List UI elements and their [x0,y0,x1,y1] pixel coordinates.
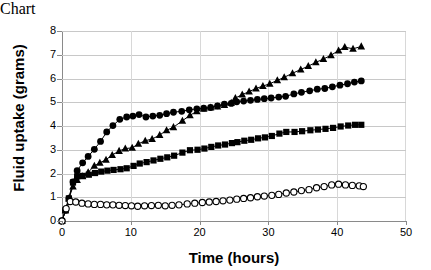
y-tick-label-1: 1 [36,191,56,202]
gridline-x-10 [131,31,132,221]
y-tick-label-5: 5 [36,96,56,107]
gridline-y-0 [62,221,406,222]
x-tick-label-0: 0 [47,226,77,238]
gridline-x-30 [268,31,269,221]
y-tick-label-3: 3 [36,144,56,155]
x-tickmark-0 [62,221,63,225]
y-tickmark-4 [57,126,62,127]
y-tick-label-2: 2 [36,168,56,179]
y-tick-label-8: 8 [36,25,56,36]
y-tickmark-8 [57,31,62,32]
x-tickmark-10 [131,221,132,225]
y-tick-label-7: 7 [36,49,56,60]
y-tickmark-5 [57,102,62,103]
x-tickmark-50 [406,221,407,225]
y-tickmark-1 [57,197,62,198]
x-tick-label-20: 20 [185,226,215,238]
y-axis-title: Fluid uptake (grams) [6,18,32,223]
gridline-y-4 [62,126,406,127]
x-tick-label-30: 30 [253,226,283,238]
x-tick-label-40: 40 [322,226,352,238]
gridline-y-3 [62,150,406,151]
x-tickmark-40 [337,221,338,225]
gridline-y-7 [62,55,406,56]
x-tick-label-50: 50 [391,226,421,238]
x-tickmark-30 [268,221,269,225]
plot-area [62,31,406,221]
gridline-x-20 [200,31,201,221]
y-tick-label-0: 0 [36,215,56,226]
x-axis-title: Time (hours) [62,249,406,266]
gridline-y-6 [62,79,406,80]
x-tickmark-20 [200,221,201,225]
y-tick-label-6: 6 [36,73,56,84]
gridline-y-8 [62,31,406,32]
y-tickmark-6 [57,79,62,80]
y-tickmark-2 [57,174,62,175]
gridline-y-2 [62,174,406,175]
y-tickmark-3 [57,150,62,151]
gridline-y-5 [62,102,406,103]
y-tick-label-4: 4 [36,120,56,131]
chart-figure: Fluid uptake (grams) 012345678 010203040… [0,18,431,270]
y-tickmark-7 [57,55,62,56]
x-tick-label-10: 10 [116,226,146,238]
gridline-x-40 [337,31,338,221]
gridline-y-1 [62,197,406,198]
x-axis-tick-labels: 01020304050 [0,226,431,242]
